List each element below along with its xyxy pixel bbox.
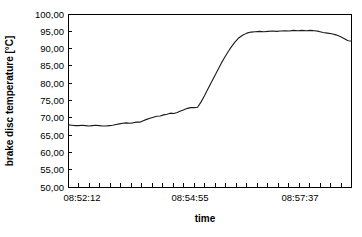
x-tick-label: 08:54:55 <box>172 192 209 203</box>
y-tick-label: 85,00 <box>40 60 64 71</box>
y-tick-label: 95,00 <box>40 26 64 37</box>
y-tick-label: 90,00 <box>40 43 64 54</box>
x-axis-title: time <box>195 213 216 224</box>
y-tick-label: 100,00 <box>35 9 64 20</box>
y-tick-label: 65,00 <box>40 130 64 141</box>
y-tick-label: 70,00 <box>40 112 64 123</box>
y-tick-label: 50,00 <box>40 182 64 193</box>
chart-figure: brake disc temperature [°C] 100,00 95,00… <box>0 0 362 237</box>
temperature-line-chart: brake disc temperature [°C] 100,00 95,00… <box>0 0 362 237</box>
y-axis-tick-labels: 100,00 95,00 90,00 85,00 80,00 75,00 70,… <box>35 9 64 193</box>
y-tick-label: 75,00 <box>40 95 64 106</box>
x-tick-label: 08:57:37 <box>282 192 319 203</box>
y-axis-title: brake disc temperature [°C] <box>4 36 15 167</box>
y-tick-label: 55,00 <box>40 164 64 175</box>
x-tick-label: 08:52:12 <box>64 192 101 203</box>
y-tick-label: 80,00 <box>40 78 64 89</box>
y-tick-label: 60,00 <box>40 147 64 158</box>
